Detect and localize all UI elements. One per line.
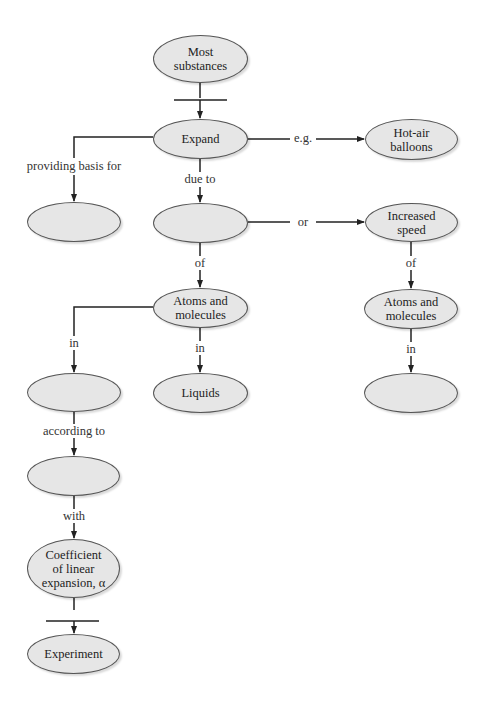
- node-atoms-molecules-right: Atoms and molecules: [364, 289, 458, 329]
- node-coefficient: Coefficient of linear expansion, α: [27, 539, 120, 598]
- node-blank-in-left: [27, 373, 121, 412]
- node-hot-air-balloons: Hot-air balloons: [365, 119, 458, 160]
- node-blank-due-to: [153, 203, 248, 243]
- node-atoms-molecules-mid: Atoms and molecules: [153, 288, 248, 328]
- link-label-or: or: [295, 215, 311, 229]
- node-most-substances: Most substances: [153, 35, 248, 83]
- link-label-in-mid: in: [192, 341, 208, 355]
- node-label: Most substances: [174, 45, 227, 73]
- link-label-of-right: of: [403, 256, 419, 270]
- node-blank-providing-basis: [27, 202, 121, 242]
- link-label-providing-basis-for: providing basis for: [24, 159, 124, 173]
- node-label: Increased speed: [388, 209, 436, 237]
- link-label-in-right: in: [403, 342, 419, 356]
- link-label-in-left: in: [66, 336, 82, 350]
- node-label: Expand: [181, 132, 219, 146]
- node-blank-in-right: [364, 373, 458, 413]
- link-label-due-to: due to: [182, 172, 219, 186]
- node-expand: Expand: [153, 119, 248, 159]
- link-label-according-to: according to: [40, 424, 108, 438]
- node-label: Atoms and molecules: [384, 295, 439, 323]
- node-label: Hot-air balloons: [390, 126, 432, 154]
- node-blank-according-to: [27, 456, 120, 496]
- node-label: Experiment: [44, 647, 102, 661]
- node-increased-speed: Increased speed: [365, 203, 458, 242]
- node-label: Coefficient of linear expansion, α: [42, 548, 105, 590]
- node-label: Atoms and molecules: [173, 294, 228, 322]
- link-label-eg: e.g.: [291, 131, 315, 145]
- link-label-with: with: [60, 509, 88, 523]
- node-experiment: Experiment: [27, 634, 120, 674]
- node-liquids: Liquids: [153, 373, 248, 413]
- link-label-of-mid: of: [192, 256, 208, 270]
- node-label: Liquids: [181, 386, 219, 400]
